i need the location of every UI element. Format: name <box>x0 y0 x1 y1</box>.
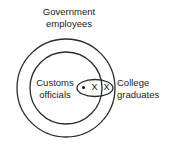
label-customs-officials-line2: officials <box>31 89 79 101</box>
label-government-employees-line1: Government <box>33 6 105 18</box>
label-college-graduates-line2: graduates <box>117 89 177 101</box>
venn-diagram-canvas: Government employees Customs officials C… <box>0 0 179 148</box>
x-mark-2: X <box>102 83 111 92</box>
label-customs-officials-line1: Customs <box>31 77 79 89</box>
label-college-graduates: College graduates <box>117 77 177 100</box>
x-mark-1: X <box>90 83 99 92</box>
label-college-graduates-line1: College <box>117 77 177 89</box>
label-government-employees: Government employees <box>33 6 105 29</box>
label-government-employees-line2: employees <box>33 18 105 30</box>
label-customs-officials: Customs officials <box>31 77 79 100</box>
